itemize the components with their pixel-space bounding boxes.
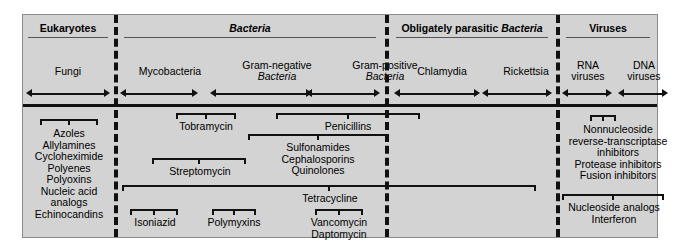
arrow-shaft: [125, 93, 193, 95]
bracket-end-right: [244, 158, 246, 164]
bracket-end-right: [418, 113, 420, 119]
bracket-sulfonamides-cephalosporins-quinolones: [248, 134, 388, 141]
range-arrow-dna-viruses: [618, 89, 668, 98]
arrow-shaft: [487, 93, 547, 95]
bracket-end-left: [562, 194, 564, 200]
drug-label-isoniazid: Isoniazid: [120, 217, 190, 229]
bracket-end-left: [276, 113, 278, 119]
arrowhead-right: [606, 89, 612, 97]
range-arrow-mycobacteria: [120, 89, 198, 98]
bracket-end-right: [662, 194, 664, 200]
organism-mycobacteria: Mycobacteria: [118, 66, 222, 77]
header-group-obligately-parasitic-bacteria: Obligately parasitic Bacteria: [392, 22, 552, 34]
bracket-stem: [153, 209, 155, 215]
bracket-end-left: [212, 209, 214, 215]
organism-label: viruses: [627, 70, 660, 82]
arrow-shaft: [31, 93, 105, 95]
bracket-end-left: [315, 209, 317, 215]
bracket-stem: [347, 113, 349, 119]
bracket-penicillins: [276, 113, 420, 120]
bracket-stem: [612, 194, 614, 200]
drug-label-sulfonamides-block: Sulfonamides Cephalosporins Quinolones: [248, 142, 388, 177]
bracket-polymyxins: [212, 209, 256, 216]
bracket-end-left: [248, 134, 250, 140]
drug-label-antifungals: Azoles Allylamines Cycloheximide Polyene…: [24, 128, 114, 220]
organism-label: Mycobacteria: [139, 65, 201, 77]
bracket-end-left: [176, 113, 178, 119]
organism-dna-viruses: DNA viruses: [616, 60, 672, 82]
drug-label-penicillins: Penicillins: [308, 121, 388, 133]
taxonomy-separator-rule: [23, 104, 657, 107]
header-group-label: Obligately parasitic Bacteria: [401, 22, 542, 34]
drug-label-nucleoside-block: Nucleoside analogs Interferon: [558, 202, 670, 225]
drug-label-vancomycin-block: Vancomycin Daptomycin: [296, 217, 382, 240]
bracket-tetracycline: [122, 185, 536, 192]
arrowhead-right: [104, 89, 110, 97]
range-arrow-gram-negative: [210, 89, 312, 98]
arrowhead-right: [546, 89, 552, 97]
bracket-end-right: [254, 209, 256, 215]
arrowhead-right: [374, 89, 380, 97]
bracket-end-left: [152, 158, 154, 164]
organism-label: Fungi: [55, 65, 81, 77]
header-underline: [566, 37, 650, 38]
bracket-end-left: [40, 119, 42, 125]
drug-label-tetracycline: Tetracycline: [284, 193, 376, 205]
header-group-label: Viruses: [589, 22, 627, 34]
bracket-tobramycin: [176, 113, 236, 120]
bracket-stem: [68, 119, 70, 125]
header-group-bacteria: Bacteria: [120, 22, 380, 34]
bracket-stem: [328, 185, 330, 191]
organism-label: Rickettsia: [503, 65, 549, 77]
drug-label-tobramycin: Tobramycin: [166, 121, 246, 133]
spectrum-of-activity-figure: Eukaryotes Bacteria Obligately parasitic…: [0, 0, 680, 252]
bracket-stem: [198, 158, 200, 164]
arrowhead-right: [474, 89, 480, 97]
kingdom-divider-obligate-viruses: [556, 15, 560, 237]
bracket-stem: [602, 115, 604, 121]
header-group-label: Eukaryotes: [40, 22, 97, 34]
bracket-end-right: [176, 209, 178, 215]
organism-chlamydia: Chlamydia: [392, 66, 492, 77]
organism-fungi: Fungi: [24, 66, 112, 77]
bracket-stem: [338, 209, 340, 215]
organism-rna-viruses: RNA viruses: [560, 60, 616, 82]
bracket-end-right: [534, 185, 536, 191]
bracket-streptomycin: [152, 158, 246, 165]
drug-label-streptomycin: Streptomycin: [145, 166, 255, 178]
range-arrow-rickettsia: [482, 89, 552, 98]
organism-label-italic: Bacteria: [258, 70, 297, 82]
bracket-end-right: [614, 115, 616, 121]
header-underline: [28, 37, 108, 38]
bracket-end-left: [122, 185, 124, 191]
bracket-end-right: [96, 119, 98, 125]
header-underline: [124, 37, 376, 38]
organism-label: Chlamydia: [417, 65, 467, 77]
arrow-shaft: [215, 93, 307, 95]
arrow-shaft: [567, 93, 607, 95]
range-arrow-gram-positive: [306, 89, 380, 98]
bracket-vancomycin-daptomycin: [315, 209, 363, 216]
header-group-label: Bacteria: [229, 22, 270, 34]
range-arrow-fungi: [26, 89, 110, 98]
bracket-end-right: [361, 209, 363, 215]
arrow-shaft: [623, 93, 663, 95]
drug-label-nnrti-block: Nonnucleoside reverse-transcriptase inhi…: [559, 124, 677, 182]
bracket-end-left: [130, 209, 132, 215]
bracket-antifungals: [40, 119, 98, 126]
header-group-viruses: Viruses: [562, 22, 654, 34]
arrow-shaft: [399, 93, 475, 95]
kingdom-divider-eukaryotes-bacteria: [114, 15, 118, 237]
header-group-eukaryotes: Eukaryotes: [24, 22, 112, 34]
range-arrow-chlamydia: [394, 89, 480, 98]
bracket-nucleoside-analogs-interferon: [562, 194, 664, 201]
bracket-stem: [233, 209, 235, 215]
bracket-stem: [317, 134, 319, 140]
arrowhead-right: [662, 89, 668, 97]
bracket-end-left: [590, 115, 592, 121]
range-arrow-rna-viruses: [562, 89, 612, 98]
organism-label: viruses: [571, 70, 604, 82]
kingdom-divider-bacteria-obligate: [385, 15, 389, 237]
bracket-isoniazid: [130, 209, 178, 216]
bracket-stem: [205, 113, 207, 119]
